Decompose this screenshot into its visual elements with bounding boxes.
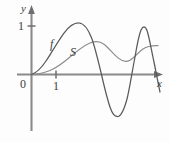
math-figure-panel: y x 1 1 0 f S — [0, 0, 170, 143]
curve-S-label: S — [70, 46, 76, 58]
x-axis-label: x — [157, 78, 162, 89]
y-axis-tick-label-1: 1 — [18, 20, 24, 32]
y-axis-label: y — [21, 3, 26, 14]
curve-f-label: f — [50, 38, 53, 50]
y-axis-arrowhead — [28, 5, 35, 14]
x-axis-tick-label-1: 1 — [53, 80, 59, 92]
origin-label: 0 — [20, 78, 26, 90]
graph-canvas — [0, 0, 170, 143]
